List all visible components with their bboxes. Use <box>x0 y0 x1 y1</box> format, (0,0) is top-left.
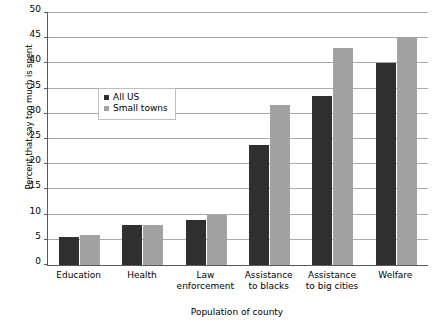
bar <box>207 215 227 265</box>
x-axis-title: Population of county <box>47 307 427 317</box>
y-tick-label: 5 <box>35 231 41 241</box>
bar <box>143 225 163 265</box>
x-tick-label: Education <box>56 270 101 281</box>
bar-group <box>48 13 111 265</box>
bar-group <box>301 13 364 265</box>
bar-group <box>365 13 428 265</box>
bar <box>59 237 79 265</box>
bar <box>122 225 142 265</box>
x-tick-label: Welfare <box>378 270 412 281</box>
y-tick-label: 20 <box>30 155 41 165</box>
y-tick-label: 45 <box>30 29 41 39</box>
legend-item-small-towns: Small towns <box>104 103 168 114</box>
y-tick-label: 25 <box>30 130 41 140</box>
y-tick-label: 30 <box>30 105 41 115</box>
legend-swatch-icon <box>104 95 109 100</box>
y-tick-label: 10 <box>30 206 41 216</box>
bar <box>376 63 396 265</box>
bar-group <box>175 13 238 265</box>
x-tick-label: Assistance to blacks <box>245 270 293 292</box>
legend-item-all-us: All US <box>104 92 168 103</box>
bar <box>186 220 206 265</box>
y-tick-label: 40 <box>30 54 41 64</box>
x-tick-label: Assistance to big cities <box>306 270 358 292</box>
bar-chart: Percent that say too much is spent 05101… <box>0 0 435 331</box>
bar-group <box>238 13 301 265</box>
bar <box>270 105 290 265</box>
bar <box>249 145 269 265</box>
bars-layer <box>48 13 428 265</box>
legend: All US Small towns <box>98 88 176 120</box>
x-axis-tick-labels: EducationHealthLaw enforcementAssistance… <box>47 270 427 304</box>
bar <box>397 37 417 265</box>
legend-label: All US <box>113 92 139 103</box>
bar-group <box>111 13 174 265</box>
bar <box>333 48 353 265</box>
y-tick-label: 50 <box>30 4 41 14</box>
bar <box>312 96 332 265</box>
x-tick-label: Law enforcement <box>177 270 234 292</box>
bar <box>80 235 100 265</box>
legend-label: Small towns <box>113 103 168 114</box>
plot-area: 05101520253035404550 <box>47 13 428 266</box>
y-tick-label: 0 <box>35 256 41 266</box>
x-tick-label: Health <box>127 270 157 281</box>
y-tick-label: 35 <box>30 80 41 90</box>
y-tick-label: 15 <box>30 180 41 190</box>
legend-swatch-icon <box>104 106 109 111</box>
